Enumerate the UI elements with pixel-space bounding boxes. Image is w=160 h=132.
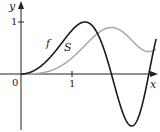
y-axis-label: y [8, 0, 16, 13]
x-axis-label: x [150, 78, 157, 91]
series-S-label: S [64, 41, 72, 54]
y-axis-arrow-icon [18, 1, 24, 9]
series-S-line [21, 27, 156, 74]
x-tick-label-1: 1 [69, 78, 75, 89]
origin-label: 0 [12, 77, 18, 88]
chart: y x 0 1 1 f S [0, 0, 160, 132]
axes [0, 1, 158, 130]
series-f-label: f [45, 37, 52, 50]
y-tick-label-1: 1 [11, 16, 17, 27]
x-axis-arrow-icon [150, 71, 158, 77]
